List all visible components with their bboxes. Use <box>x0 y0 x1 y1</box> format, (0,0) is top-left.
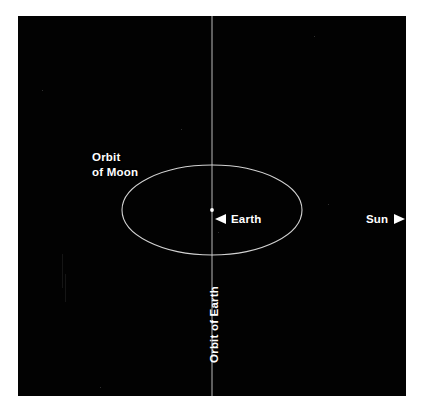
triangle-right-icon <box>394 214 405 224</box>
sky-panel: Orbit of Moon Earth Sun Orbit of Earth <box>18 16 406 396</box>
orbit-of-moon-label-line2: of Moon <box>92 166 138 178</box>
sun-label: Sun <box>366 213 388 225</box>
figure-root: Orbit of Moon Earth Sun Orbit of Earth <box>0 0 423 413</box>
triangle-left-icon <box>215 214 226 224</box>
orbit-of-earth-label: Orbit of Earth <box>208 286 220 363</box>
orbit-of-moon-label: Orbit of Moon <box>92 150 138 179</box>
earth-annotation: Earth <box>215 213 261 225</box>
sun-annotation: Sun <box>366 213 405 225</box>
orbit-of-moon-label-line1: Orbit <box>92 151 120 163</box>
orbit-of-earth-annotation: Orbit of Earth <box>205 286 223 396</box>
earth-label: Earth <box>231 213 261 225</box>
earth-marker-dot <box>210 208 214 212</box>
